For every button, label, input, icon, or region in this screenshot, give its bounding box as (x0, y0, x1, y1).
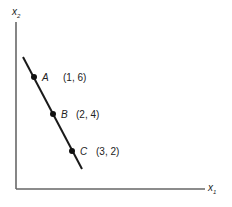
point-c-coords: (3, 2) (96, 146, 119, 157)
point-b-label: B (61, 109, 68, 120)
point-b-coords: (2, 4) (76, 109, 99, 120)
diagram-canvas: x2 x1 A (1, 6) B (2, 4) C (3, 2) (0, 0, 232, 207)
y-axis-label: x2 (11, 6, 21, 19)
point-c-marker (69, 148, 75, 154)
point-b-marker (50, 111, 56, 117)
point-a-marker (31, 74, 37, 80)
point-c-label: C (80, 146, 88, 157)
point-a-label: A (41, 72, 49, 83)
x-axis-label: x1 (207, 182, 216, 195)
point-a-coords: (1, 6) (63, 72, 86, 83)
